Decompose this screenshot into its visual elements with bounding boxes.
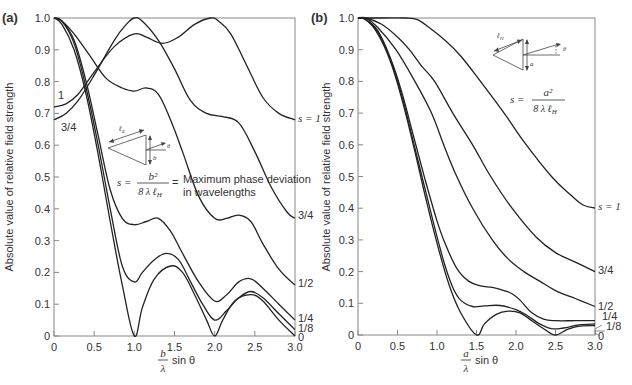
curve-s-1-4	[54, 18, 295, 320]
y-tick-label: 0.5	[35, 171, 50, 183]
y-tick-label: 0.5	[339, 171, 354, 183]
panel-a-diagram-length-label: ℓE	[118, 125, 125, 134]
curve-s-1-2	[358, 17, 595, 306]
curve-s-1-2	[54, 18, 295, 285]
panel-a-formula-lhs: s =	[117, 176, 131, 188]
y-tick-label: 0.6	[35, 139, 50, 151]
panel-a-x-label-den: λ	[160, 362, 166, 374]
y-tick-label: 0.8	[339, 75, 354, 87]
panel-a-formula-num: b²	[149, 170, 159, 182]
curve-s-3-4	[358, 18, 595, 272]
panel-a-left-label-s1: 1	[58, 89, 64, 101]
y-tick-label: 0.1	[339, 297, 354, 309]
y-tick-label: 1.0	[339, 12, 354, 24]
panel-a-formula: s = b² 8 λ ℓH = Maximum phase deviation …	[117, 170, 311, 199]
panel-b-x-label-den: λ	[463, 362, 469, 374]
y-tick-label: 0	[348, 329, 354, 341]
panel-a-horn-diagram	[108, 129, 166, 165]
panel-b-series-labels: s = 1 3/4 1/2 1/4 1/8 0	[595, 200, 621, 342]
panel-a-series-labels: s = 1 3/4 1/2 1/4 1/8 0	[298, 112, 321, 343]
panel-a-formula-eq: =	[172, 176, 178, 188]
curve-s-1-8	[358, 18, 595, 329]
panel-a-label-s1: s = 1	[298, 112, 321, 124]
x-tick-label: 0.5	[87, 341, 102, 353]
panel-b-formula: s = a² 8 λ ℓH	[510, 86, 565, 116]
panel-b-label-s34: 3/4	[598, 264, 613, 276]
panel-a-y-axis-label: Absolute value of relative field strengt…	[3, 83, 15, 272]
curve-s-1-4	[358, 18, 595, 321]
y-tick-label: 0	[44, 330, 50, 342]
y-tick-label: 0.9	[35, 44, 50, 56]
x-tick-label: 2.0	[508, 340, 523, 352]
panel-a-label-s0: 0	[298, 331, 304, 343]
y-tick-label: 0.8	[35, 76, 50, 88]
panel-a-formula-den: 8 λ ℓH	[138, 186, 163, 199]
panel-b-y-axis-label: Absolute value of relative field strengt…	[320, 83, 332, 272]
panel-b-y-ticks: 00.10.20.30.40.50.60.70.80.91.0	[339, 12, 363, 341]
panel-b-label-s18: 1/8	[606, 320, 621, 332]
panel-b-x-ticks: 00.51.01.52.02.53.0	[355, 330, 603, 352]
y-tick-label: 0.3	[35, 235, 50, 247]
panel-b-label: (b)	[311, 10, 328, 25]
panel-b-horn-diagram	[493, 39, 561, 71]
panel-a-left-label-s34: 3/4	[61, 121, 76, 133]
y-tick-label: 0.2	[339, 266, 354, 278]
panel-b-label-s0: 0	[598, 330, 604, 342]
x-tick-label: 1.5	[167, 341, 182, 353]
panel-a-label: (a)	[2, 10, 18, 25]
y-tick-label: 0.2	[35, 266, 50, 278]
panel-b-label-s1: s = 1	[598, 200, 621, 212]
x-tick-label: 1.0	[127, 341, 142, 353]
panel-a-x-label-num: b	[160, 347, 166, 359]
x-tick-label: 2.5	[247, 341, 262, 353]
y-tick-label: 1.0	[35, 12, 50, 24]
x-tick-label: 0	[51, 341, 57, 353]
x-tick-label: 1.0	[429, 340, 444, 352]
x-tick-label: 2.5	[548, 340, 563, 352]
panel-a-x-label-suffix: sin θ	[172, 354, 195, 366]
panel-b-diagram-length-label: ℓH	[496, 32, 504, 41]
panel-b-x-label-suffix: sin θ	[475, 354, 498, 366]
panel-b: (b) 00.10.20.30.40.50.60.70.80.91.0 00.5…	[311, 10, 621, 374]
panel-b-x-label-num: a	[463, 347, 469, 359]
x-tick-label: 2.0	[207, 341, 222, 353]
panel-b-curves	[358, 17, 595, 335]
figure: (a) 00.10.20.30.40.50.60.70.80.91.0 00.5…	[0, 0, 632, 385]
panel-b-diagram-angle-label: θ	[563, 46, 566, 52]
y-tick-label: 0.6	[339, 139, 354, 151]
y-tick-label: 0.7	[339, 107, 354, 119]
y-tick-label: 0.7	[35, 107, 50, 119]
y-tick-label: 0.3	[339, 234, 354, 246]
y-tick-label: 0.4	[339, 202, 354, 214]
panel-a-annotation-line2: in wavelengths	[183, 186, 256, 198]
panel-b-formula-lhs: s =	[510, 93, 524, 105]
x-tick-label: 0	[355, 340, 361, 352]
panel-b-formula-num: a²	[544, 86, 554, 98]
panel-b-formula-den: 8 λ ℓH	[533, 103, 558, 116]
panel-a-y-ticks: 00.10.20.30.40.50.60.70.80.91.0	[35, 12, 59, 342]
panel-a-label-s34: 3/4	[298, 209, 313, 221]
panel-a-x-ticks: 00.51.01.52.02.53.0	[51, 331, 303, 353]
y-tick-label: 0.4	[35, 203, 50, 215]
panel-b-diagram-dim-label: a	[530, 60, 534, 68]
panel-a-diagram-dim-label: b	[153, 154, 157, 162]
x-tick-label: 0.5	[390, 340, 405, 352]
y-tick-label: 0.9	[339, 44, 354, 56]
x-tick-label: 1.5	[469, 340, 484, 352]
y-tick-label: 0.1	[35, 298, 50, 310]
panel-a: (a) 00.10.20.30.40.50.60.70.80.91.0 00.5…	[2, 10, 321, 374]
curve-s-3-4	[54, 18, 295, 219]
panel-a-label-s12: 1/2	[298, 277, 313, 289]
panel-a-diagram-angle-label: θ	[167, 143, 170, 149]
panel-a-annotation-line1: Maximum phase deviation	[183, 173, 311, 185]
